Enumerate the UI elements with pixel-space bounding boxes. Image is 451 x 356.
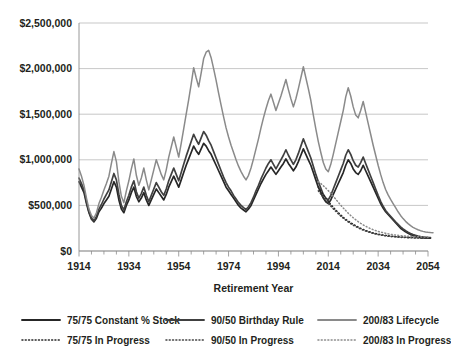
- y-axis-tick-label: $2,000,000: [19, 62, 72, 74]
- legend-label-75-75-constant-stock: 75/75 Constant % Stock: [67, 315, 180, 326]
- y-axis-tick-label: $500,000: [28, 199, 72, 211]
- x-axis-tick-label: 2014: [317, 260, 341, 272]
- axis-lines: [79, 23, 428, 251]
- legend-label-90-50-birthday-rule: 90/50 Birthday Rule: [211, 315, 304, 326]
- x-axis-tick-label: 2034: [366, 260, 390, 272]
- legend-label-75-75-in-progress: 75/75 In Progress: [67, 335, 150, 346]
- x-axis-tick-label: 1994: [267, 260, 291, 272]
- retirement-year-line-chart: $0$500,000$1,000,000$1,500,000$2,000,000…: [0, 0, 451, 356]
- x-axis-tick-label: 1974: [217, 260, 241, 272]
- legend-label-90-50-in-progress: 90/50 In Progress: [211, 335, 294, 346]
- x-axis-title: Retirement Year: [214, 282, 294, 294]
- y-axis-tick-labels: $0$500,000$1,000,000$1,500,000$2,000,000…: [19, 17, 72, 257]
- x-axis-tick-labels: 19141934195419741994201420342054: [67, 260, 440, 272]
- data-series-group: [79, 50, 433, 238]
- projected-line-75-75-in-progress: [318, 187, 428, 238]
- gridlines: [79, 23, 428, 251]
- chart-root: $0$500,000$1,000,000$1,500,000$2,000,000…: [0, 0, 451, 356]
- series-line-75-75-constant-stock: [79, 143, 430, 238]
- x-axis-tick-label: 1914: [67, 260, 91, 272]
- x-axis-tick-label: 1954: [167, 260, 191, 272]
- legend-label-200-83-lifecycle: 200/83 Lifecycle: [363, 315, 440, 326]
- y-axis-tick-label: $1,000,000: [19, 153, 72, 165]
- x-axis-tick-label: 2054: [416, 260, 440, 272]
- y-axis-tick-label: $2,500,000: [19, 17, 72, 29]
- x-axis-tick-label: 1934: [117, 260, 141, 272]
- y-axis-tick-label: $1,500,000: [19, 108, 72, 120]
- y-axis-tick-label: $0: [60, 245, 72, 257]
- series-line-90-50-birthday-rule: [79, 132, 430, 238]
- x-axis-ticks: [79, 251, 428, 257]
- chart-legend: 75/75 Constant % Stock90/50 Birthday Rul…: [22, 315, 451, 346]
- legend-label-200-83-in-progress: 200/83 In Progress: [363, 335, 451, 346]
